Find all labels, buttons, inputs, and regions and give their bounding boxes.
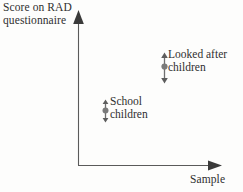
series-label-line-2: children bbox=[168, 61, 227, 74]
y-axis-label-line-2: questionnaire bbox=[3, 14, 72, 27]
series-label-school-children: School children bbox=[110, 95, 148, 121]
x-axis-label: Sample bbox=[190, 173, 225, 186]
chart-figure: Score on RAD questionnaire Sample Looked… bbox=[0, 0, 243, 192]
y-axis-arrowhead bbox=[73, 10, 84, 24]
x-axis-arrowhead bbox=[208, 160, 222, 170]
series-label-line-2: children bbox=[110, 108, 148, 121]
series-label-line-1: Looked after bbox=[168, 48, 227, 61]
y-axis-label-line-1: Score on RAD bbox=[3, 1, 72, 14]
series-label-looked-after-children: Looked after children bbox=[168, 48, 227, 74]
series-label-line-1: School bbox=[110, 95, 148, 108]
y-axis-label: Score on RAD questionnaire bbox=[3, 1, 72, 26]
